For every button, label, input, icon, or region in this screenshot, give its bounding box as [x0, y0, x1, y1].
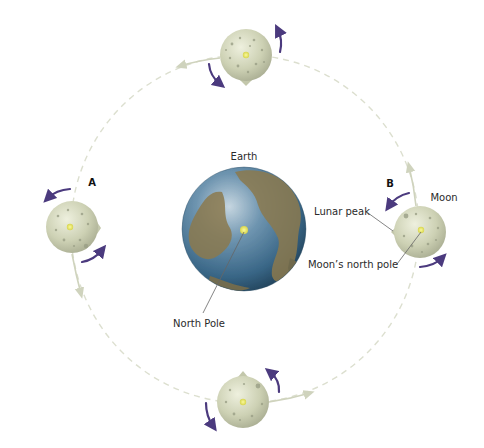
- orbit-direction-arrow-top: [180, 58, 220, 66]
- lunar-peak-label: Lunar peak: [314, 206, 370, 217]
- moons-north-pole-label: Moon’s north pole: [308, 259, 398, 270]
- rotation-arrow-icon: [206, 403, 213, 426]
- rotation-arrow-icon: [209, 64, 220, 84]
- moon-bottom: [217, 371, 269, 428]
- moon-north-pole-marker-top: [243, 52, 249, 58]
- earth: [182, 167, 306, 291]
- moon-north-pole-marker-bottom: [240, 399, 246, 405]
- moon-position-b: [391, 206, 446, 258]
- rotation-arrow-icon: [278, 30, 281, 52]
- orbit-direction-arrow-right: [409, 166, 416, 206]
- position-b-label: B: [386, 178, 394, 189]
- earth-label: Earth: [231, 151, 258, 162]
- north-pole-label: North Pole: [173, 318, 225, 329]
- rotation-arrow-icon: [82, 250, 102, 262]
- moon-label: Moon: [430, 192, 457, 203]
- rotation-arrow-icon: [420, 258, 442, 267]
- moon-position-a: [46, 201, 101, 253]
- orbit-direction-arrow-left: [72, 254, 81, 294]
- earth-moon-orbit-diagram: Earth North Pole A B Moon Lunar peak Moo…: [0, 0, 484, 448]
- position-a-label: A: [88, 177, 96, 188]
- rotation-arrow-icon: [270, 372, 279, 392]
- orbit-direction-arrow-bottom: [269, 393, 310, 402]
- rotation-arrow-icon: [389, 193, 409, 206]
- moon-north-pole-marker-a: [67, 224, 73, 230]
- rotation-arrow-icon: [48, 189, 70, 198]
- moon-top: [220, 29, 272, 86]
